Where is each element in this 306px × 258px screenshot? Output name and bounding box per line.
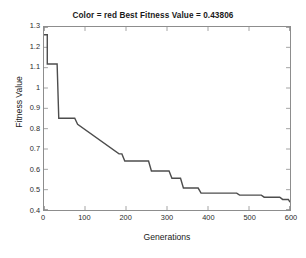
x-tick-label: 200 — [119, 214, 131, 222]
x-tick-label: 300 — [161, 214, 173, 222]
figure-canvas: Color = red Best Fitness Value = 0.43806… — [0, 0, 306, 258]
y-tick-label: 0.9 — [30, 104, 40, 112]
x-tick-label: 600 — [285, 214, 297, 222]
y-tick-label: 0.8 — [30, 125, 40, 133]
x-tick-label: 0 — [41, 214, 45, 222]
tick-marks — [44, 27, 290, 210]
best-fitness-step-line — [44, 35, 290, 203]
y-tick-label: 1.1 — [30, 63, 40, 71]
x-tick-label: 100 — [78, 214, 90, 222]
x-axis-label: Generations — [43, 232, 291, 242]
x-axis-tick-label-group: 0100200300400500600 — [0, 214, 306, 226]
y-tick-label: 0.7 — [30, 145, 40, 153]
y-tick-label: 0.6 — [30, 166, 40, 174]
y-tick-label: 1.2 — [30, 43, 40, 51]
plot-area — [43, 26, 291, 211]
x-tick-label: 500 — [243, 214, 255, 222]
x-tick-label: 400 — [202, 214, 214, 222]
y-tick-label: 1 — [36, 84, 40, 92]
y-tick-label: 0.5 — [30, 186, 40, 194]
y-tick-label: 1.3 — [30, 22, 40, 30]
plot-svg — [44, 27, 290, 210]
chart-title: Color = red Best Fitness Value = 0.43806 — [0, 11, 306, 20]
